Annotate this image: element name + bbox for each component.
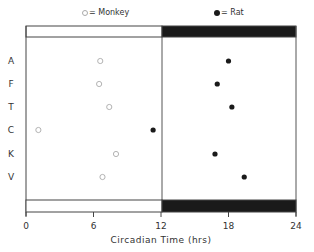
x-tick-label: 24 xyxy=(290,221,302,231)
x-tick-label: 0 xyxy=(23,221,29,231)
rat-point-v xyxy=(242,174,247,179)
row-labels: AFTCKV xyxy=(7,56,15,182)
row-label-f: F xyxy=(8,79,13,89)
top-dark-bar xyxy=(162,26,296,37)
monkey-point-a xyxy=(98,58,103,63)
x-tick-label: 12 xyxy=(155,221,166,231)
bottom-dark-bar xyxy=(162,200,296,212)
row-label-v: V xyxy=(8,172,15,182)
bottom-light-bar xyxy=(26,200,162,212)
monkey-point-f xyxy=(97,81,102,86)
chart: 06121824 AFTCKV Circadian Time (hrs) xyxy=(0,0,314,252)
rat-point-f xyxy=(215,81,220,86)
data-points xyxy=(36,58,247,179)
x-tick-label: 6 xyxy=(91,221,97,231)
row-label-t: T xyxy=(7,102,14,112)
monkey-point-k xyxy=(113,151,118,156)
row-label-k: K xyxy=(8,149,15,159)
x-tick-label: 18 xyxy=(223,221,235,231)
rat-point-a xyxy=(226,58,231,63)
monkey-point-t xyxy=(107,104,112,109)
top-light-bar xyxy=(26,26,162,37)
rat-point-c xyxy=(151,127,156,132)
monkey-point-c xyxy=(36,127,41,132)
rat-point-k xyxy=(212,151,217,156)
x-axis-ticks: 06121824 xyxy=(23,212,302,231)
rat-point-t xyxy=(229,104,234,109)
x-axis-title: Circadian Time (hrs) xyxy=(110,235,211,245)
row-label-a: A xyxy=(8,56,15,66)
row-label-c: C xyxy=(8,125,14,135)
monkey-point-v xyxy=(100,174,105,179)
